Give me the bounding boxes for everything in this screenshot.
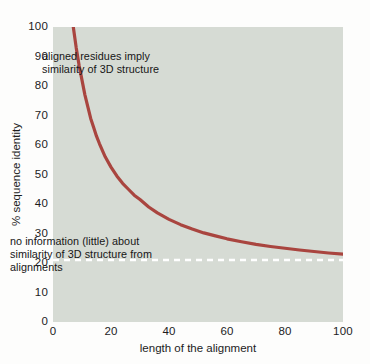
figure-canvas: 0102030405060708090100 020406080100 leng…: [0, 0, 370, 364]
y-tick-label: 10: [2, 287, 48, 299]
x-tick-label: 20: [91, 326, 131, 338]
annotation-no-information: no information (little) about similarity…: [10, 235, 152, 275]
x-tick-label: 40: [149, 326, 189, 338]
x-axis-tick-labels: 020406080100: [0, 326, 370, 342]
x-axis-label: length of the alignment: [53, 342, 343, 355]
y-tick-label: 100: [2, 21, 48, 33]
annotation-aligned-residues: aligned residues imply similarity of 3D …: [42, 50, 159, 76]
x-tick-label: 0: [33, 326, 73, 338]
x-tick-label: 100: [323, 326, 363, 338]
x-tick-label: 60: [207, 326, 247, 338]
y-axis-tick-labels: 0102030405060708090100: [0, 0, 48, 364]
x-tick-label: 80: [265, 326, 305, 338]
